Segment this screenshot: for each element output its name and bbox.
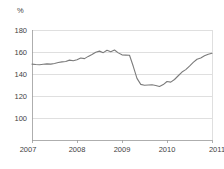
x-axis-tick-label: 2008 xyxy=(69,145,86,154)
x-axis-tick-label: 2007 xyxy=(20,145,37,154)
y-axis-tick-label: 140 xyxy=(14,70,27,79)
line-chart-plot: 100120140160180 20072008200920102011 xyxy=(0,0,224,169)
x-axis-tick-label: 2010 xyxy=(159,145,176,154)
y-axis-tick-labels: 100120140160180 xyxy=(14,26,27,123)
axis-lines xyxy=(32,30,212,143)
y-axis-tick-label: 180 xyxy=(14,26,27,35)
x-axis-tick-label: 2011 xyxy=(209,145,224,154)
y-axis-tick-label: 100 xyxy=(14,114,27,123)
data-series-line xyxy=(32,50,212,87)
chart-figure: % 100120140160180 20072008200920102011 xyxy=(0,0,224,169)
x-axis-tick-label: 2009 xyxy=(114,145,131,154)
gridlines xyxy=(32,30,212,118)
y-axis-tick-label: 160 xyxy=(14,48,27,57)
y-axis-tick-label: 120 xyxy=(14,92,27,101)
x-axis-tick-labels: 20072008200920102011 xyxy=(20,145,224,154)
